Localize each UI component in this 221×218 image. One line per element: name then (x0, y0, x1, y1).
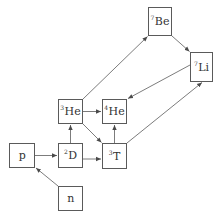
edge-t-to-li7 (127, 83, 202, 144)
element-symbol: He (65, 105, 81, 118)
element-symbol: Li (198, 61, 209, 74)
node-lithium-7: 7Li (190, 52, 213, 82)
node-deuterium: 2D (58, 143, 83, 168)
element-symbol: T (113, 150, 120, 163)
mass-number: 3 (109, 149, 113, 156)
edge-he3-to-be7 (83, 37, 148, 100)
mass-number: 2 (64, 148, 68, 155)
element-symbol: He (109, 105, 125, 118)
node-beryllium-7: 7Be (148, 7, 172, 36)
mass-number: 7 (194, 60, 198, 67)
edge-n-to-p (36, 168, 58, 186)
node-proton: p (9, 143, 35, 168)
mass-number: 4 (104, 104, 108, 111)
edge-li7-to-he4 (128, 65, 190, 99)
mass-number: 3 (60, 104, 64, 111)
node-neutron: n (58, 186, 83, 211)
element-symbol: n (67, 192, 74, 205)
element-symbol: Be (155, 15, 170, 28)
edge-be7-to-li7 (172, 36, 190, 52)
element-symbol: p (19, 149, 26, 162)
mass-number: 7 (151, 14, 155, 21)
node-helium-3: 3He (58, 99, 83, 124)
element-symbol: D (68, 149, 77, 162)
node-helium-4: 4He (102, 99, 127, 124)
edge-he3-to-t (83, 124, 102, 143)
node-tritium: 3T (102, 143, 127, 169)
